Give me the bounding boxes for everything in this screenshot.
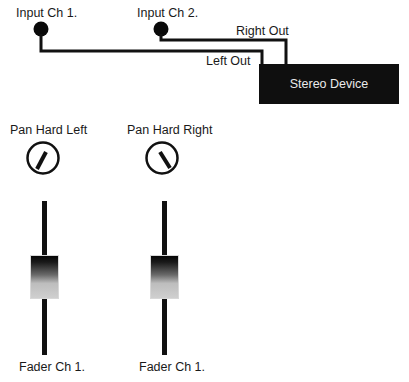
fader-ch2-track-upper	[162, 201, 167, 255]
fader-ch1-handle[interactable]	[30, 255, 59, 299]
input-ch1-label: Input Ch 1.	[16, 6, 77, 20]
fader-ch2-label: Fader Ch 1.	[139, 360, 205, 374]
fader-ch1-track-lower	[42, 299, 47, 355]
stereo-device-box: Stereo Device	[259, 64, 399, 104]
right-out-label: Right Out	[236, 24, 289, 38]
signal-wiring	[0, 0, 409, 382]
pan-knob-right[interactable]	[147, 143, 178, 174]
fader-ch1-track-upper	[42, 201, 47, 255]
fader-ch2-track-lower	[162, 299, 167, 355]
fader-ch2-handle[interactable]	[150, 255, 179, 299]
pan-knob-left[interactable]	[28, 143, 59, 174]
pan-right-label: Pan Hard Right	[127, 123, 212, 137]
stereo-device-label: Stereo Device	[290, 77, 369, 91]
pan-left-label: Pan Hard Left	[10, 123, 87, 137]
left-out-label: Left Out	[206, 54, 250, 68]
input-ch2-label: Input Ch 2.	[137, 6, 198, 20]
fader-ch1-label: Fader Ch 1.	[19, 360, 85, 374]
